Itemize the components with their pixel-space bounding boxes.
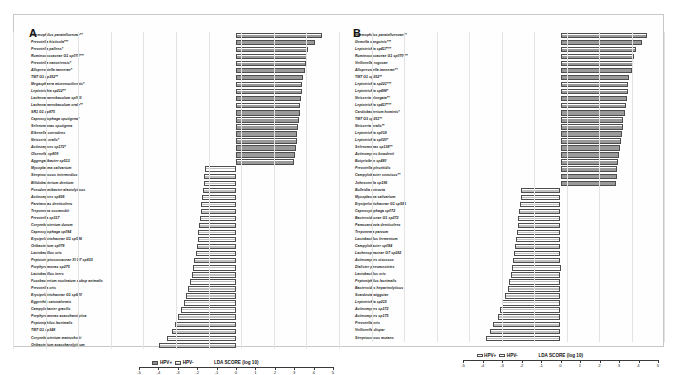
- lda-bar: [514, 251, 560, 256]
- gridline: [274, 32, 275, 349]
- bar-area: [139, 328, 333, 335]
- bar-area: [463, 328, 658, 335]
- bar-area: [139, 145, 333, 152]
- lda-bar: [199, 223, 236, 228]
- bar-area: [139, 180, 333, 187]
- taxon-label: Porphyromonas asaccharolytica: [31, 316, 135, 320]
- bar-area: [139, 335, 333, 342]
- bar-area: [139, 321, 333, 328]
- lda-bar: [190, 279, 236, 284]
- gridline: [534, 32, 535, 342]
- bar-area: [463, 81, 658, 88]
- lda-bar: [159, 343, 236, 348]
- bar-area: [139, 300, 333, 307]
- lda-bar: [200, 216, 236, 221]
- bar-area: [463, 307, 658, 314]
- taxon-label: Leptotrichia sp212**: [31, 90, 135, 94]
- bar-area: [139, 250, 333, 257]
- lda-bar: [236, 159, 294, 164]
- bar-area: [463, 222, 658, 229]
- bar-area: [463, 39, 658, 46]
- gridline: [143, 32, 144, 349]
- lda-bar: [561, 145, 620, 150]
- lda-bar: [561, 40, 643, 45]
- bar-area: [139, 222, 333, 229]
- lda-bar: [561, 61, 634, 66]
- lda-bar: [521, 195, 561, 200]
- lda-bar: [193, 265, 236, 270]
- panel-a-rows: Haemophilus parainfluenzae**Prevotella h…: [13, 32, 339, 349]
- panel-a-axis: -5-4-3-2-1012345: [139, 367, 333, 368]
- taxon-label: Prevotella pallens*: [31, 48, 135, 52]
- panel-b: B Haemophilus parainfluenzae**Gemella sa…: [339, 14, 664, 347]
- lda-bar: [561, 89, 628, 94]
- gridline: [502, 32, 503, 342]
- taxon-label: Parvimonas denticolens: [31, 203, 135, 207]
- lda-bar: [509, 279, 560, 284]
- lda-bar: [167, 336, 236, 341]
- lda-bar: [561, 82, 629, 87]
- bar-area: [139, 46, 333, 53]
- lda-bar: [517, 230, 561, 235]
- taxon-label: Eikenella corrodens: [31, 132, 135, 136]
- legend-label: HPV-: [507, 353, 518, 358]
- lda-bar: [512, 265, 561, 270]
- axis-tick-label: 0: [559, 363, 561, 368]
- panel-a: A Haemophilus parainfluenzae**Prevotella…: [13, 14, 339, 347]
- bar-area: [463, 279, 658, 286]
- taxon-label: Megasphaera micronuciformis*: [31, 83, 135, 87]
- bar-area: [139, 159, 333, 166]
- bar-area: [463, 138, 658, 145]
- gridline: [209, 32, 210, 349]
- gridline: [339, 32, 340, 342]
- taxon-label: Capnocytophaga sputigena*: [31, 118, 135, 122]
- axis-tick-label: 3: [618, 363, 620, 368]
- lda-bar: [184, 300, 236, 305]
- bar-area: [463, 159, 658, 166]
- taxon-label: Pseudoramibacter alactolyticus: [31, 189, 135, 193]
- taxon-label: Treponema socranskii: [31, 210, 135, 214]
- lda-bar: [561, 166, 618, 171]
- bar-area: [463, 117, 658, 124]
- panel-b-axis: -5-4-3-2-1012345: [463, 360, 658, 361]
- lda-bar: [561, 68, 632, 73]
- bar-area: [463, 102, 658, 109]
- bar-area: [463, 321, 658, 328]
- lda-bar: [236, 47, 308, 52]
- legend-label: HPV+: [160, 360, 172, 365]
- lda-bar: [561, 54, 635, 59]
- lda-bar: [201, 202, 236, 207]
- legend-item: HPV-: [175, 360, 193, 365]
- bar-area: [139, 117, 333, 124]
- bar-area: [139, 258, 333, 265]
- lda-bar: [201, 209, 236, 214]
- lda-bar: [513, 258, 561, 263]
- bar-area: [463, 335, 658, 342]
- lda-bar: [516, 237, 560, 242]
- lda-bar: [561, 124, 623, 129]
- lda-bar: [236, 103, 300, 108]
- bar-area: [463, 265, 658, 272]
- bar-area: [139, 243, 333, 250]
- bar-area: [139, 131, 333, 138]
- taxon-label: Actinomyces sp172*: [31, 147, 135, 151]
- lda-bar: [493, 322, 560, 327]
- axis-tick-label: -2: [195, 370, 199, 375]
- bar-area: [139, 208, 333, 215]
- legend-swatch: [175, 361, 181, 365]
- bar-area: [139, 152, 333, 159]
- lda-bar: [511, 272, 561, 277]
- axis-tick-label: 0: [235, 370, 237, 375]
- bar-area: [463, 215, 658, 222]
- lda-bar: [236, 131, 297, 136]
- panel-a-legend: HPV+HPV-: [152, 360, 193, 365]
- gridline: [13, 32, 14, 349]
- bar-area: [139, 215, 333, 222]
- bar-area: [139, 229, 333, 236]
- lda-bar: [505, 293, 560, 298]
- gridline: [437, 32, 438, 342]
- lda-bar: [561, 117, 624, 122]
- lda-bar: [561, 110, 625, 115]
- lda-bar: [518, 223, 561, 228]
- bar-area: [463, 208, 658, 215]
